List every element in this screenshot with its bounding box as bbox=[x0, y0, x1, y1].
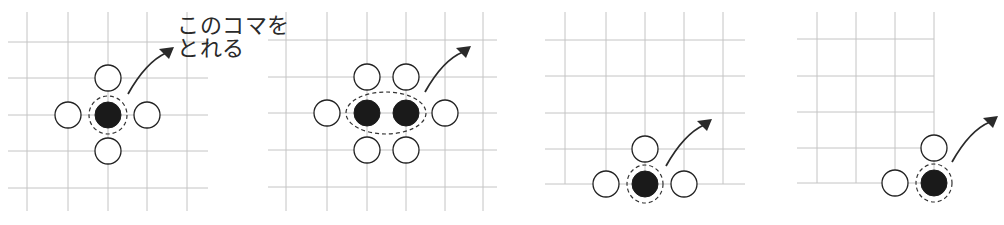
black-stone bbox=[95, 102, 121, 128]
board-grid bbox=[268, 12, 497, 211]
white-stone bbox=[432, 100, 458, 126]
capture-arrow bbox=[952, 122, 990, 162]
white-stone bbox=[921, 135, 947, 161]
black-stone bbox=[921, 170, 947, 196]
white-stone bbox=[95, 138, 121, 164]
capture-arrow bbox=[666, 125, 704, 166]
arrow-head-icon bbox=[456, 46, 471, 58]
white-stone bbox=[55, 102, 81, 128]
black-stone bbox=[632, 171, 658, 197]
diagram-center-double bbox=[268, 12, 497, 211]
board-grid bbox=[797, 12, 934, 183]
white-stone bbox=[354, 64, 380, 90]
arrow-head-icon bbox=[159, 47, 174, 59]
white-stone bbox=[95, 65, 121, 91]
diagram-canvas bbox=[0, 0, 1004, 225]
arrow-head-icon bbox=[983, 116, 998, 128]
white-stone bbox=[632, 136, 658, 162]
caption-line-1: このコマを bbox=[177, 14, 290, 37]
white-stone bbox=[354, 137, 380, 163]
white-stone bbox=[671, 171, 697, 197]
white-stone bbox=[134, 102, 160, 128]
caption-line-2: とれる bbox=[177, 37, 290, 60]
white-stone bbox=[393, 137, 419, 163]
go-capture-diagrams: このコマをとれる bbox=[0, 0, 1004, 225]
capture-arrow bbox=[425, 52, 463, 92]
white-stone bbox=[593, 171, 619, 197]
capture-caption: このコマをとれる bbox=[177, 14, 290, 60]
black-stone bbox=[393, 100, 419, 126]
diagram-corner bbox=[797, 12, 998, 202]
black-stone bbox=[354, 100, 380, 126]
diagram-edge bbox=[545, 12, 745, 203]
white-stone bbox=[393, 64, 419, 90]
white-stone bbox=[882, 170, 908, 196]
arrow-head-icon bbox=[697, 119, 712, 131]
white-stone bbox=[314, 100, 340, 126]
